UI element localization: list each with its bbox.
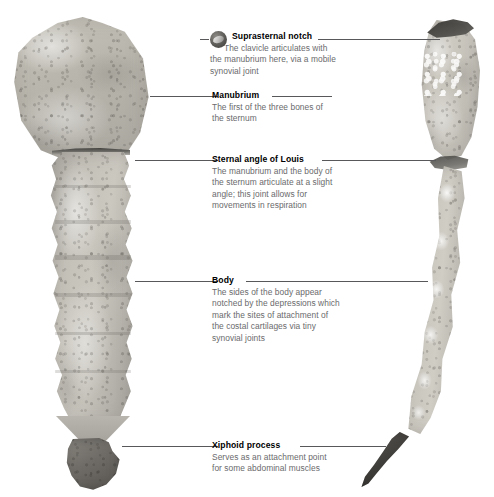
callout-body-text: The sides of the body appear notched by … — [212, 287, 340, 344]
callout-xiphoid-process[interactable]: Xiphoid process Serves as an attachment … — [212, 440, 338, 475]
callout-body-text: The clavicle articulates with the manubr… — [210, 43, 340, 77]
callout-manubrium[interactable]: Manubrium The first of the three bones o… — [212, 90, 336, 125]
lateral-body-costal-facets — [398, 166, 472, 434]
callout-heading: Xiphoid process — [212, 440, 338, 451]
callout-body-text: The first of the three bones of the ster… — [212, 102, 336, 125]
callout-heading: Suprasternal notch — [210, 31, 340, 42]
callout-suprasternal-notch[interactable]: Suprasternal notch The clavicle articula… — [210, 31, 340, 77]
callout-body-text: The manubrium and the body of the sternu… — [212, 166, 338, 212]
callout-heading: Body — [212, 275, 340, 286]
lateral-xiphoid-process — [358, 432, 416, 488]
leader-line-manubrium-left — [150, 96, 218, 97]
callout-heading: Sternal angle of Louis — [212, 154, 338, 165]
leader-line-sternal-angle-right — [322, 160, 436, 161]
leader-line-body-left — [135, 281, 218, 282]
callout-sternal-angle-of-louis[interactable]: Sternal angle of Louis The manubrium and… — [212, 154, 338, 212]
callout-body-text: Serves as an attachment point for some a… — [212, 452, 338, 475]
lateral-manubrium-porous-surface — [424, 52, 464, 96]
sternum-anatomy-figure: Suprasternal notch The clavicle articula… — [0, 0, 494, 497]
leader-line-sternal-angle-left — [135, 160, 218, 161]
callout-heading: Manubrium — [212, 90, 336, 101]
photo-thumbnail-icon — [210, 31, 227, 48]
leader-line-xiphoid-left — [122, 446, 218, 447]
callout-body[interactable]: Body The sides of the body appear notche… — [212, 275, 340, 344]
